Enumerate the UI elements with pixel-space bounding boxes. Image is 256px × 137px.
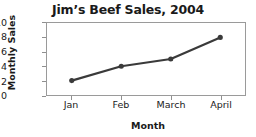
plot-area (46, 22, 246, 96)
y-tick-label-4: 4 (0, 62, 7, 72)
x-axis-label: Month (40, 120, 256, 131)
line-chart: Jim’s Beef Sales, 2004 Monthly Sales 10 … (0, 0, 256, 137)
data-point-jan (69, 78, 74, 83)
series-markers (69, 35, 223, 83)
series-line-beef-sales (72, 37, 221, 80)
y-tick-label-0: 0 (0, 91, 7, 101)
chart-title: Jim’s Beef Sales, 2004 (0, 2, 256, 17)
y-tick-label-8: 8 (0, 32, 7, 42)
y-tick-label-6: 6 (0, 47, 7, 57)
series-layer (47, 23, 245, 95)
data-point-feb (119, 64, 124, 69)
y-tick-label-10: 10 (0, 18, 7, 28)
y-tick-label-2: 2 (0, 77, 7, 87)
x-tick-label-jan: Jan (48, 100, 94, 110)
y-axis-label: Monthly Sales (6, 11, 17, 95)
data-point-april (218, 35, 223, 40)
x-tick-label-feb: Feb (98, 100, 144, 110)
x-tick-label-march: March (148, 100, 194, 110)
x-tick-label-april: April (198, 100, 244, 110)
data-point-march (168, 56, 173, 61)
